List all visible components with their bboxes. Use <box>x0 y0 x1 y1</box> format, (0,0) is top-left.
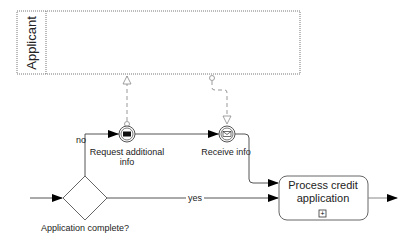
sequence-flow-request-to-receive[interactable] <box>135 130 219 138</box>
gateway-label: Application complete? <box>41 223 129 233</box>
task-label-1: Process credit <box>288 179 358 191</box>
flow-label-no: no <box>76 135 86 145</box>
task-process-credit-application[interactable]: Process credit application + <box>279 176 368 220</box>
event-label-request-2: info <box>120 157 135 167</box>
message-flow-pool-to-receive[interactable] <box>210 76 232 125</box>
expand-marker: + <box>320 210 324 217</box>
message-flow-request-to-pool[interactable] <box>123 76 131 127</box>
pool-label: Applicant <box>24 16 39 70</box>
envelope-filled-icon <box>123 132 131 137</box>
event-label-receive: Receive info <box>201 147 251 157</box>
pool-applicant[interactable]: Applicant <box>17 11 300 74</box>
flow-label-yes: yes <box>188 193 203 203</box>
subprocess-expand-icon[interactable]: + <box>319 210 326 217</box>
event-request-additional-info[interactable]: Request additional info <box>90 126 165 167</box>
task-label-2: application <box>297 192 350 204</box>
sequence-flow-outgoing[interactable] <box>368 194 398 202</box>
sequence-flow-incoming[interactable] <box>30 194 63 202</box>
sequence-flow-receive-to-task[interactable] <box>235 134 279 187</box>
bpmn-diagram: Applicant Application complete? no Reque… <box>0 0 406 238</box>
event-label-request-1: Request additional <box>90 147 165 157</box>
envelope-outline-icon <box>223 132 231 137</box>
gateway-application-complete[interactable]: Application complete? <box>41 176 129 233</box>
sequence-flow-yes[interactable]: yes <box>107 193 279 203</box>
